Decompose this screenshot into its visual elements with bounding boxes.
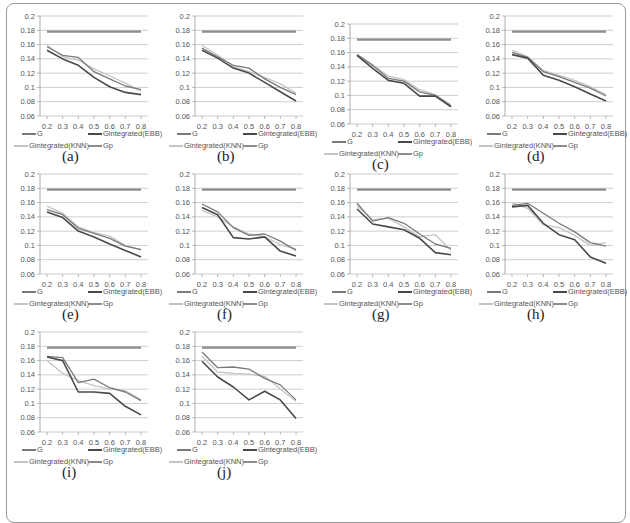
line-chart: 0.20.180.160.140.120.10.080.060.20.30.40…	[155, 160, 310, 320]
legend-swatch	[479, 303, 493, 305]
y-tick-label: 0.08	[175, 97, 190, 106]
y-tick-label: 0.2	[335, 20, 345, 29]
y-tick-label: 0.2	[490, 12, 500, 21]
legend-item: G	[487, 129, 508, 138]
chart-panel-h: 0.20.180.160.140.120.10.080.060.20.30.40…	[465, 160, 620, 320]
legend-swatch	[398, 153, 412, 155]
legend-label: Gintegrated(KNN)	[184, 457, 244, 466]
legend-swatch	[14, 303, 28, 305]
legend-swatch	[22, 133, 36, 135]
line-chart: 0.20.180.160.140.120.10.080.060.20.30.40…	[155, 318, 310, 478]
series-line-gintegratedebb	[47, 50, 141, 94]
series-line-g	[202, 204, 296, 250]
legend-swatch	[243, 303, 257, 305]
y-tick-label: 0.06	[485, 270, 500, 279]
legend-label: Gintegrated(EBB)	[568, 287, 627, 296]
legend-item: G	[177, 445, 198, 454]
y-tick-label: 0.2	[490, 170, 500, 179]
x-tick-label: 0.2	[42, 438, 52, 447]
legend-label: Gintegrated(KNN)	[184, 141, 244, 150]
legend-swatch	[88, 291, 102, 293]
chart-panel-g: 0.20.180.160.140.120.10.080.060.20.30.40…	[310, 160, 465, 320]
legend-item: Gintegrated(EBB)	[553, 129, 627, 138]
legend-swatch	[22, 291, 36, 293]
legend-label: G	[37, 287, 43, 296]
legend-label: G	[502, 287, 508, 296]
y-tick-label: 0.2	[335, 170, 345, 179]
legend-item: G	[177, 129, 198, 138]
legend-item: Gp	[243, 457, 268, 466]
y-tick-label: 0.18	[175, 184, 190, 193]
legend-swatch	[324, 153, 338, 155]
x-tick-label: 0.2	[42, 122, 52, 131]
x-tick-label: 0.4	[228, 122, 238, 131]
y-tick-label: 0.1	[490, 83, 500, 92]
panel-label: (j)	[217, 464, 231, 481]
legend-swatch	[553, 291, 567, 293]
y-tick-label: 0.18	[175, 26, 190, 35]
x-tick-label: 0.4	[538, 122, 548, 131]
legend-label: G	[192, 445, 198, 454]
legend-label: G	[502, 129, 508, 138]
y-tick-label: 0.12	[485, 227, 500, 236]
legend-label: G	[192, 129, 198, 138]
y-tick-label: 0.1	[25, 399, 35, 408]
series-line-g	[47, 356, 141, 400]
x-tick-label: 0.4	[383, 280, 393, 289]
y-tick-label: 0.1	[180, 83, 190, 92]
series-line-g	[47, 210, 141, 250]
legend-label: Gintegrated(KNN)	[339, 299, 399, 308]
series-line-gintegratedebb	[512, 205, 606, 263]
x-tick-label: 0.4	[228, 280, 238, 289]
series-line-g	[47, 47, 141, 90]
y-tick-label: 0.12	[485, 69, 500, 78]
legend-swatch	[479, 145, 493, 147]
chart-panel-f: 0.20.180.160.140.120.10.080.060.20.30.40…	[155, 160, 310, 320]
legend-swatch	[332, 291, 346, 293]
legend-item: Gp	[398, 299, 423, 308]
x-tick-label: 0.2	[197, 438, 207, 447]
y-tick-label: 0.2	[180, 170, 190, 179]
series-line-gintegratedebb	[357, 209, 451, 255]
line-chart: 0.20.180.160.140.120.10.080.060.20.30.40…	[0, 318, 155, 478]
legend-label: Gintegrated(EBB)	[413, 287, 472, 296]
legend-swatch	[487, 291, 501, 293]
legend-label: Gintegrated(EBB)	[103, 445, 162, 454]
y-tick-label: 0.1	[490, 241, 500, 250]
legend-label: Gintegrated(KNN)	[29, 141, 89, 150]
legend-item: Gintegrated(EBB)	[88, 129, 162, 138]
x-tick-label: 0.3	[212, 438, 222, 447]
x-tick-label: 0.2	[197, 122, 207, 131]
y-tick-label: 0.08	[20, 97, 35, 106]
y-tick-label: 0.06	[330, 270, 345, 279]
y-tick-label: 0.18	[20, 342, 35, 351]
x-tick-label: 0.3	[367, 130, 377, 139]
legend-item: Gp	[553, 141, 578, 150]
legend-label: Gintegrated(KNN)	[494, 299, 554, 308]
y-tick-label: 0.08	[20, 413, 35, 422]
x-tick-label: 0.4	[73, 122, 83, 131]
legend-label: Gp	[103, 299, 113, 308]
line-chart: 0.20.180.160.140.120.10.080.060.20.30.40…	[465, 2, 620, 162]
legend-item: G	[332, 287, 353, 296]
series-line-gintegratedebb	[512, 55, 606, 101]
legend-label: Gp	[413, 299, 423, 308]
legend-label: Gp	[258, 141, 268, 150]
y-tick-label: 0.2	[25, 328, 35, 337]
x-tick-label: 0.3	[57, 438, 67, 447]
series-line-gintegratedknn	[202, 210, 296, 249]
legend-item: G	[332, 137, 353, 146]
legend-swatch	[88, 449, 102, 451]
y-tick-label: 0.1	[335, 241, 345, 250]
legend-label: Gintegrated(EBB)	[103, 287, 162, 296]
y-tick-label: 0.06	[175, 112, 190, 121]
legend-label: G	[347, 287, 353, 296]
y-tick-label: 0.14	[175, 54, 190, 63]
y-tick-label: 0.06	[20, 428, 35, 437]
y-tick-label: 0.14	[175, 212, 190, 221]
legend-label: Gp	[103, 457, 113, 466]
x-tick-label: 0.4	[73, 438, 83, 447]
legend-item: Gintegrated(EBB)	[243, 129, 317, 138]
legend-swatch	[88, 303, 102, 305]
x-tick-label: 0.3	[212, 280, 222, 289]
